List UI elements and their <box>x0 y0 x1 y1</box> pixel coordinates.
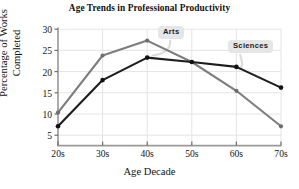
data-point-arts-30s <box>101 53 105 57</box>
xtick-label-20s: 20s <box>51 148 64 159</box>
x-axis-title: Age Decade <box>0 166 299 177</box>
data-point-arts-20s <box>56 111 60 115</box>
ytick-label-15: 15 <box>28 87 52 98</box>
ytick-label-20: 20 <box>28 66 52 77</box>
chart-figure: Age Trends in Professional Productivity … <box>0 0 299 189</box>
data-point-arts-60s <box>234 89 238 93</box>
series-callout-arts: Arts <box>158 26 184 39</box>
ytick-label-5: 5 <box>28 130 52 141</box>
series-callout-sciences: Sciences <box>228 40 273 53</box>
series-line-sciences <box>58 58 281 127</box>
xtick-label-60s: 60s <box>230 148 243 159</box>
data-point-sciences-70s <box>279 85 284 90</box>
ytick-label-25: 25 <box>28 45 52 56</box>
data-point-sciences-30s <box>100 78 105 83</box>
xtick-label-50s: 50s <box>185 148 198 159</box>
series-line-arts <box>58 41 281 127</box>
xtick-label-30s: 30s <box>96 148 109 159</box>
data-point-arts-40s <box>145 39 149 43</box>
data-point-sciences-40s <box>145 55 150 60</box>
data-point-sciences-20s <box>56 124 61 129</box>
ytick-label-10: 10 <box>28 109 52 120</box>
data-point-arts-70s <box>279 124 283 128</box>
data-point-sciences-50s <box>190 60 195 65</box>
ytick-label-30: 30 <box>28 24 52 35</box>
xtick-label-40s: 40s <box>141 148 154 159</box>
series-sciences <box>56 55 284 128</box>
xtick-label-70s: 70s <box>274 148 287 159</box>
data-point-sciences-60s <box>234 65 239 70</box>
